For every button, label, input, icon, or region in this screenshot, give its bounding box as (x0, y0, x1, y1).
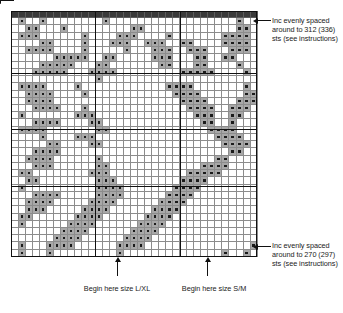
chart-cell-empty (117, 141, 124, 148)
chart-cell-empty (250, 199, 257, 206)
chart-cell-empty (124, 54, 131, 61)
chart-cell-filled (243, 47, 250, 54)
chart-cell-empty (131, 105, 138, 112)
chart-cell-empty (201, 18, 208, 25)
chart-cell-empty (61, 119, 68, 126)
chart-cell-filled (201, 119, 208, 126)
chart-cell-empty (82, 199, 89, 206)
chart-cell-empty (243, 112, 250, 119)
chart-cell-filled (54, 242, 61, 249)
chart-cell-filled (236, 112, 243, 119)
chart-cell-filled (194, 90, 201, 97)
chart-cell-filled (187, 177, 194, 184)
chart-cell-empty (110, 119, 117, 126)
chart-cell-filled (222, 32, 229, 39)
chart-cell-empty (215, 90, 222, 97)
chart-cell-empty (131, 18, 138, 25)
chart-cell-filled (145, 227, 152, 234)
chart-cell-empty (159, 68, 166, 75)
chart-cell-filled (19, 112, 26, 119)
chart-cell-filled (33, 90, 40, 97)
chart-cell-empty (124, 112, 131, 119)
chart-cell-filled (103, 68, 110, 75)
chart-cell-empty (215, 227, 222, 234)
chart-cell-empty (159, 133, 166, 140)
chart-cell-filled (236, 133, 243, 140)
chart-cell-empty (152, 177, 159, 184)
chart-cell-filled (229, 133, 236, 140)
chart-cell-empty (12, 39, 19, 46)
chart-cell-empty (26, 133, 33, 140)
chart-cell-filled (82, 47, 89, 54)
chart-cell-empty (194, 141, 201, 148)
chart-cell-empty (180, 133, 187, 140)
chart-cell-empty (110, 76, 117, 83)
chart-cell-empty (229, 155, 236, 162)
chart-cell-empty (180, 170, 187, 177)
chart-cell-empty (96, 47, 103, 54)
chart-cell-empty (19, 155, 26, 162)
chart-cell-empty (222, 105, 229, 112)
chart-cell-empty (47, 213, 54, 220)
chart-cell-filled (47, 68, 54, 75)
chart-cell-filled (19, 18, 26, 25)
chart-cell-empty (26, 18, 33, 25)
chart-cell-empty (145, 191, 152, 198)
chart-cell-empty (159, 191, 166, 198)
chart-cell-filled (229, 47, 236, 54)
chart-cell-filled (131, 242, 138, 249)
chart-row (12, 119, 258, 126)
chart-cell-filled (180, 83, 187, 90)
chart-cell-empty (180, 18, 187, 25)
chart-cell-empty (236, 220, 243, 227)
chart-cell-empty (250, 47, 257, 54)
chart-cell-empty (54, 220, 61, 227)
chart-cell-empty (152, 112, 159, 119)
chart-cell-empty (68, 90, 75, 97)
chart-cell-empty (215, 191, 222, 198)
chart-cell-filled (166, 32, 173, 39)
chart-cell-filled (47, 199, 54, 206)
chart-cell-empty (103, 220, 110, 227)
chart-cell-empty (187, 206, 194, 213)
chart-cell-filled (194, 112, 201, 119)
chart-cell-empty (166, 162, 173, 169)
chart-cell-empty (159, 119, 166, 126)
chart-cell-filled (243, 68, 250, 75)
chart-cell-filled (26, 90, 33, 97)
chart-cell-filled (33, 97, 40, 104)
chart-cell-empty (243, 191, 250, 198)
chart-cell-empty (124, 119, 131, 126)
chart-cell-empty (110, 133, 117, 140)
chart-cell-filled (96, 191, 103, 198)
chart-cell-filled (138, 235, 145, 242)
chart-cell-empty (19, 68, 26, 75)
chart-row (12, 227, 258, 234)
chart-cell-empty (250, 119, 257, 126)
chart-cell-empty (138, 206, 145, 213)
chart-cell-empty (145, 155, 152, 162)
chart-cell-empty (40, 76, 47, 83)
chart-cell-empty (33, 235, 40, 242)
chart-cell-empty (61, 105, 68, 112)
chart-cell-empty (145, 54, 152, 61)
chart-cell-filled (40, 18, 47, 25)
chart-cell-empty (82, 177, 89, 184)
chart-cell-empty (54, 47, 61, 54)
chart-cell-empty (40, 54, 47, 61)
chart-cell-empty (19, 54, 26, 61)
heavy-horizontal-rule-3 (11, 186, 257, 187)
chart-cell-filled (19, 170, 26, 177)
chart-cell-empty (12, 133, 19, 140)
chart-cell-empty (152, 68, 159, 75)
chart-cell-empty (166, 170, 173, 177)
chart-cell-empty (61, 191, 68, 198)
chart-cell-empty (194, 249, 201, 256)
chart-cell-empty (117, 227, 124, 234)
chart-cell-empty (68, 119, 75, 126)
chart-cell-empty (250, 54, 257, 61)
chart-cell-empty (124, 141, 131, 148)
chart-row (12, 141, 258, 148)
chart-cell-empty (54, 170, 61, 177)
chart-cell-empty (187, 148, 194, 155)
